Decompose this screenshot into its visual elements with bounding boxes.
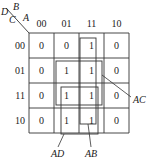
cell-value: 1: [64, 65, 69, 76]
cell-value: 0: [39, 90, 44, 101]
row-header: 10: [15, 115, 25, 126]
cell-value: 0: [114, 90, 119, 101]
column-header: 10: [112, 18, 122, 29]
cell-value: 0: [114, 65, 119, 76]
column-header: 00: [37, 18, 47, 29]
row-header: 11: [15, 90, 25, 101]
cell-value: 0: [64, 40, 69, 51]
cell-value: 0: [39, 65, 44, 76]
corner-var-b: B: [13, 1, 19, 12]
column-header: 11: [87, 18, 97, 29]
column-header: 01: [62, 18, 72, 29]
corner-var-a: A: [22, 12, 30, 23]
cell-value: 0: [114, 40, 119, 51]
leader-ab: [88, 124, 91, 147]
label-ab: AB: [84, 148, 97, 159]
cell-value: 1: [64, 115, 69, 126]
cell-value: 1: [64, 90, 69, 101]
row-header: 00: [15, 40, 25, 51]
label-ad: AD: [50, 148, 65, 159]
cell-value: 1: [89, 65, 94, 76]
cell-value: 0: [114, 115, 119, 126]
cell-value: 1: [89, 40, 94, 51]
cell-value: 0: [39, 115, 44, 126]
row-header: 01: [15, 65, 25, 76]
corner-var-d: D: [0, 6, 9, 17]
cell-value: 0: [39, 40, 44, 51]
corner-var-c: C: [9, 14, 16, 25]
cell-value: 1: [89, 90, 94, 101]
label-ac: AC: [132, 94, 146, 105]
karnaugh-map: B A D C 00011110 00011110 00100110011001…: [0, 0, 151, 167]
leader-ad: [58, 134, 64, 147]
